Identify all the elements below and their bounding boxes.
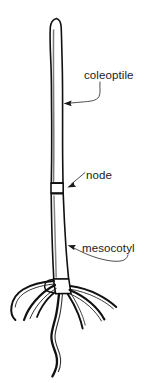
- label-mesocotyl: mesocotyl: [82, 242, 135, 254]
- seedling-diagram: coleoptile node mesocotyl: [0, 0, 161, 383]
- label-node: node: [86, 169, 112, 181]
- mesocotyl-stem: [51, 194, 68, 279]
- seedling-figure: coleoptile node mesocotyl: [0, 0, 161, 383]
- seminal-roots: [11, 281, 116, 376]
- coleoptile-shoot: [50, 19, 63, 184]
- leader-coleoptile: [64, 82, 100, 106]
- leader-node: [67, 173, 85, 188]
- label-coleoptile: coleoptile: [84, 69, 134, 81]
- node-band: [51, 183, 63, 193]
